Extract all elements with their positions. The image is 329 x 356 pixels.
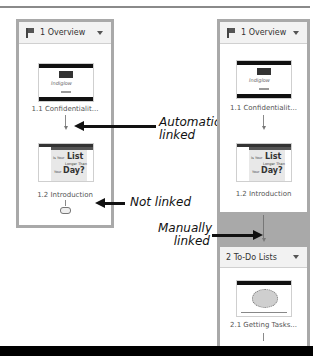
thumb-text-4: Your	[252, 170, 259, 174]
thumb-button	[259, 88, 269, 90]
arrow-down-icon	[262, 126, 266, 130]
section-header-overview[interactable]: 1 Overview	[220, 22, 307, 44]
callout-arrow-line	[82, 125, 156, 128]
link-icon[interactable]	[60, 207, 71, 214]
left-outline-panel: 1 Overview Indiglow 1.1 Confidentialit..…	[16, 19, 114, 228]
callout-arrow-head	[253, 230, 263, 240]
thumb-text-5: Day?	[63, 166, 85, 175]
unlinked-connector-line	[65, 200, 66, 206]
thumb-header-bar	[237, 281, 291, 285]
thumb-button	[61, 91, 71, 93]
section-header-todo-lists[interactable]: 2 To-Do Lists	[220, 247, 307, 268]
top-divider	[0, 6, 310, 8]
callout-arrow-line	[103, 202, 125, 205]
manual-link-connector-line	[263, 215, 264, 239]
thumb-footer-bar	[237, 94, 291, 98]
bottom-black-bar	[0, 346, 313, 356]
thumb-text-5: Day?	[261, 166, 283, 175]
chevron-down-icon[interactable]	[293, 31, 299, 35]
flag-icon	[226, 28, 236, 38]
section-title: 1 Overview	[40, 28, 97, 37]
thumb-title: Indiglow	[51, 80, 72, 86]
slide-thumbnail-1-1[interactable]: Indiglow	[236, 60, 292, 99]
thumb-header-bar	[237, 61, 291, 65]
callout-not-linked: Not linked	[130, 196, 191, 209]
thumb-logo	[257, 68, 271, 75]
thumb-brain-image	[252, 289, 278, 308]
thumb-text-1: Is Your	[251, 156, 262, 160]
slide-thumbnail-1-2[interactable]: Is Your List Longer Than Your Day?	[236, 143, 292, 182]
slide-thumbnail-2-1[interactable]	[236, 280, 292, 317]
thumb-header-bar	[39, 64, 93, 68]
section-title: 1 Overview	[241, 28, 293, 37]
thumb-text-2: List	[265, 152, 281, 161]
chevron-down-icon[interactable]	[293, 255, 299, 259]
thumb-text-4: Your	[54, 170, 61, 174]
slide-thumbnail-1-2[interactable]: Is Your List Longer Than Your Day?	[38, 143, 94, 182]
callout-text-line-2: linked	[158, 235, 210, 248]
thumb-text-1: Is Your	[53, 156, 64, 160]
thumb-text-2: List	[67, 152, 83, 161]
slide-label-2-1: 2.1 Getting Tasks...	[220, 321, 307, 329]
chevron-down-icon[interactable]	[97, 31, 103, 35]
thumb-logo	[59, 71, 73, 78]
flag-icon	[25, 28, 35, 38]
callout-manually-linked: Manually linked	[158, 222, 210, 248]
link-connector-line	[263, 333, 264, 341]
thumb-footer-bar	[39, 97, 93, 101]
slide-label-1-2: 1.2 Introduction	[220, 190, 307, 198]
section-2-body: 2 To-Do Lists 2.1 Getting Tasks...	[220, 247, 307, 346]
thumb-title: Indiglow	[249, 77, 270, 83]
section-1-body: 1 Overview Indiglow 1.1 Confidentialit..…	[220, 22, 307, 212]
arrow-down-icon	[64, 126, 68, 130]
slide-thumbnail-1-1[interactable]: Indiglow	[38, 63, 94, 102]
section-1-body: 1 Overview Indiglow 1.1 Confidentialit..…	[19, 22, 111, 225]
slide-label-1-1: 1.1 Confidentialit...	[220, 104, 307, 112]
section-title: 2 To-Do Lists	[220, 253, 293, 262]
thumb-footer-line	[241, 312, 287, 313]
section-header-overview[interactable]: 1 Overview	[19, 22, 111, 44]
right-outline-panel: 1 Overview Indiglow 1.1 Confidentialit..…	[217, 19, 310, 346]
callout-arrow-line	[212, 234, 254, 237]
slide-label-1-1: 1.1 Confidentialit...	[19, 105, 111, 113]
